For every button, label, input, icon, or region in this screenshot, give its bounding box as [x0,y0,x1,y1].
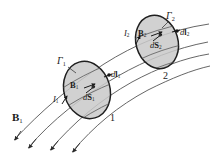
label-length-1: dl1 [111,70,120,80]
field-line-arrowheads [15,131,80,152]
label-area-1: dS1 [83,93,95,103]
contour-1-subscript: 1 [63,60,66,67]
label-circuit-number-2: 2 [163,71,168,81]
label-field-1: B1 [70,81,78,91]
source-field-subscript: 1 [19,117,22,124]
label-contour-1: Γ1 [57,56,66,67]
label-circuit-number-1: 1 [110,113,115,123]
field-arrow-2 [51,141,58,150]
field-1-subscript: 1 [76,84,79,90]
label-current-1: I1 [53,95,58,105]
ds2-point [159,34,162,37]
label-field-2: B2 [138,29,146,39]
dl2-dot [175,29,179,33]
field-arrow-4 [15,131,21,140]
area-1-subscript: 1 [92,96,95,102]
label-source-field: B1 [12,112,23,125]
label-length-2: dl2 [180,28,189,38]
physics-figure: Γ1 Γ2 B1 B2 dS1 dS2 dl1 dl2 I1 I2 B1 1 2 [0,0,211,153]
length-2-subscript: 2 [187,31,190,37]
surface-1-fill [57,56,117,124]
label-contour-2: Γ2 [166,11,175,22]
contour-2-subscript: 2 [172,15,175,22]
current-1-subscript: 1 [56,98,59,104]
current-2-subscript: 2 [127,32,130,38]
field-arrow-3 [73,143,80,152]
length-1-subscript: 1 [118,73,121,79]
label-area-2: dS2 [150,41,162,51]
label-current-2: I2 [124,29,129,39]
figure-canvas [0,0,211,153]
ds1-point [91,85,94,88]
field-2-subscript: 2 [144,32,147,38]
field-arrow-1 [29,139,36,148]
area-2-subscript: 2 [159,44,162,50]
field-lines-back [14,24,210,152]
